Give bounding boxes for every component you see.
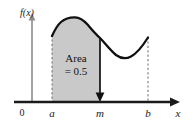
area-annotation-line2: = 0.5 [65,65,88,77]
figure-container: f(x) x 0 a m b Area = 0.5 [0,0,193,124]
area-annotation-line1: Area [65,52,86,64]
x-tick-label-b: b [145,107,151,119]
x-axis-arrowhead-icon [170,98,180,107]
origin-label: 0 [20,107,25,118]
x-tick-label-m: m [96,107,104,119]
x-tick-label-a: a [49,107,55,119]
x-axis-label: x [175,107,181,119]
y-axis-label: f(x) [20,7,35,19]
area-under-curve-figure: f(x) x 0 a m b Area = 0.5 [0,0,193,124]
